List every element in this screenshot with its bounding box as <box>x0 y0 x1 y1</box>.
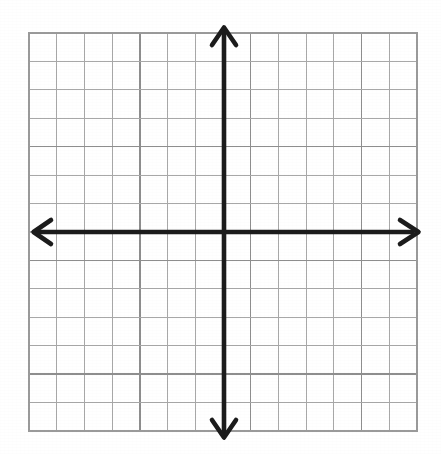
coordinate-plane-svg <box>0 0 441 454</box>
coordinate-grid-figure <box>0 0 441 454</box>
figure-background <box>0 0 441 454</box>
screenshot-root <box>0 0 441 454</box>
